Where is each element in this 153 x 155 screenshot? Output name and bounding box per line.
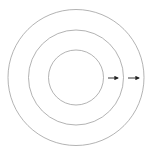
middle-circle — [29, 30, 124, 125]
inner-circle — [49, 50, 104, 105]
concentric-circles-diagram — [0, 0, 153, 155]
